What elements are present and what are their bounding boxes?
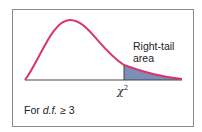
right-tail-label: Right-tail area bbox=[133, 40, 174, 64]
critical-value-label: χ2 bbox=[117, 82, 128, 98]
degrees-of-freedom-note: For d.f. ≥ 3 bbox=[24, 104, 75, 116]
